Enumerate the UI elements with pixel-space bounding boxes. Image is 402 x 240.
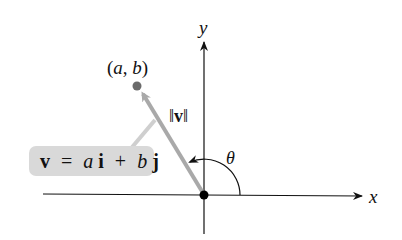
label-a: a [113,57,123,78]
magnitude-label: ‖v‖ [169,106,188,126]
symbol-a: a [83,150,93,172]
label-b: b [132,57,142,78]
symbol-b: b [137,150,147,172]
callout-box: v = a i + b j [29,146,159,176]
symbol-v: v [40,150,50,172]
point-label: (a, b) [107,57,148,79]
vector-diagram: x y v = a i + b j (a, b) ‖v‖ θ [0,0,402,240]
norm-v: v [174,106,183,126]
symbol-j: j [151,150,159,173]
point-a-b [133,82,142,91]
equals-sign: = [61,150,72,172]
paren-close: ) [142,57,148,79]
theta-label: θ [226,148,235,168]
origin-dot [200,191,209,200]
x-axis-label: x [368,186,378,207]
norm-bar-right: ‖ [183,106,188,126]
comma: , [123,57,133,78]
symbol-i: i [98,150,104,172]
y-axis-label: y [197,17,208,38]
plus-sign: + [115,150,126,172]
